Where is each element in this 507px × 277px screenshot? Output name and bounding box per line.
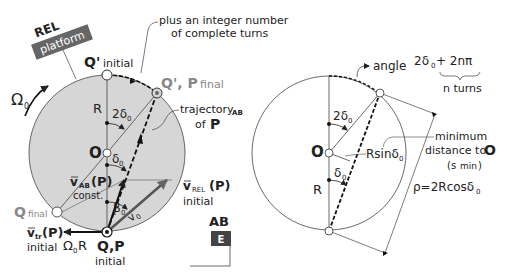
two-delta-label: 2δ xyxy=(112,107,127,121)
angle-leader xyxy=(357,66,369,77)
v-tr-paren: (P) xyxy=(42,225,63,240)
min-dist-line3: (s xyxy=(447,160,456,171)
v-ab-paren: (P) xyxy=(91,174,112,189)
q-prime-p-final-label: Q', P xyxy=(161,75,198,91)
omega-r-sub: 0 xyxy=(73,247,77,255)
r-label: R xyxy=(313,182,322,197)
delta-sub: 0 xyxy=(342,174,346,182)
trajectory-label: trajectory xyxy=(180,103,234,116)
q-final-point xyxy=(52,207,62,217)
rel-frame-tag: platform REL xyxy=(26,9,93,60)
two-delta-sub: 0 xyxy=(127,115,131,123)
rsin-leader xyxy=(345,154,366,156)
o-point xyxy=(325,149,333,157)
angle-expr2: + 2nπ xyxy=(436,54,472,68)
dot xyxy=(105,121,109,125)
ab-frame-tag: E xyxy=(218,234,225,245)
delta-sub: 0 xyxy=(119,160,123,168)
v-ab-sub: AB xyxy=(79,182,90,190)
final-point xyxy=(376,89,384,97)
rel-tag-leader xyxy=(63,50,76,79)
angle-arc-dashed xyxy=(329,76,380,94)
note-turns-line1: plus an integer number xyxy=(159,14,289,27)
ab-frame-label: AB xyxy=(209,214,229,229)
rsin-label: Rsinδ xyxy=(366,147,399,161)
rsin-sub: 0 xyxy=(399,155,403,163)
v-rel-sub: REL xyxy=(192,186,205,194)
two-delta-arc xyxy=(329,124,347,130)
omega-r-label: Ω xyxy=(63,238,73,253)
omega-r-tail: R xyxy=(78,238,87,253)
initial-point xyxy=(325,227,333,235)
left-diagram: platform REL Ω 0 plus an integer number … xyxy=(11,9,289,268)
trajectory-sub: AB xyxy=(232,109,243,117)
min-dist-line2: distance to xyxy=(425,144,486,157)
omega-label: Ω xyxy=(11,90,23,109)
v-rel-paren: (P) xyxy=(209,178,230,193)
v-ab-note: const. xyxy=(73,190,103,201)
o-point xyxy=(103,149,111,157)
two-delta-label: 2δ xyxy=(333,109,348,123)
q-final-sub: final xyxy=(28,209,47,219)
rho-label: ρ=2Rcosδ xyxy=(413,180,474,194)
omega-sub: 0 xyxy=(24,102,29,111)
ab-frame-corner xyxy=(190,246,230,266)
turns-note: n turns xyxy=(443,82,482,95)
right-diagram: angle 2δ 0 + 2nπ n turns 2δ 0 O Rsinδ 0 … xyxy=(252,54,496,256)
note-turns-line2: of complete turns xyxy=(171,27,269,40)
qp-initial-note: initial xyxy=(95,255,125,268)
trajectory-of: of xyxy=(195,118,207,131)
min-dist-sub: min xyxy=(460,161,477,171)
min-dist-o: O xyxy=(484,142,496,158)
v-tr-note: initial xyxy=(27,241,57,254)
q-prime-p-final-sub: final xyxy=(200,78,224,91)
qp-initial-label: Q,P xyxy=(97,238,124,254)
min-dist-line1: minimum xyxy=(435,130,487,143)
extension-bottom xyxy=(329,231,385,253)
q-prime-initial-sub: initial xyxy=(103,57,133,70)
turns-brace xyxy=(440,72,480,80)
r-label: R xyxy=(93,101,102,116)
angle-expr1: 2δ xyxy=(414,54,429,68)
min-dist-close: ) xyxy=(478,160,482,171)
angle-expr-sub: 0 xyxy=(431,62,435,70)
o-label: O xyxy=(89,144,102,162)
note-turns-leader xyxy=(141,22,158,73)
trajectory-p: P xyxy=(210,116,220,132)
rho-sub: 0 xyxy=(476,188,480,196)
q-prime-initial-label: Q' xyxy=(84,54,100,70)
dot xyxy=(105,163,109,167)
delta-label: δ xyxy=(334,166,341,180)
o-label: O xyxy=(311,143,324,161)
q-prime-initial-point xyxy=(102,70,112,80)
dot xyxy=(105,200,109,204)
two-delta-sub: 0 xyxy=(348,117,352,125)
angle-word: angle xyxy=(373,59,406,73)
diagram-canvas: platform REL Ω 0 plus an integer number … xyxy=(0,0,507,277)
radius-to-final xyxy=(329,93,380,153)
v-rel-note: initial xyxy=(183,195,213,208)
q-final-label: Q xyxy=(14,204,26,220)
beta-label: β xyxy=(113,201,121,215)
